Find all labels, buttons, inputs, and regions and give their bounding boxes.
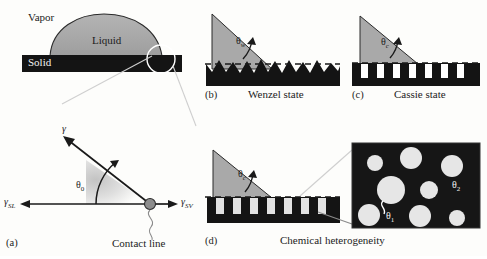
panel-c-caption: Cassie state: [394, 89, 446, 100]
cassie-air-gap: [441, 64, 448, 78]
d-chem-patch: [233, 198, 241, 214]
inset-top-view: [352, 143, 480, 228]
contact-line-caption: Contact line: [112, 238, 165, 249]
inset-patch-circle: [377, 176, 405, 204]
inset-patch-circle: [449, 210, 465, 226]
panel-d-caption: Chemical heterogeneity: [280, 235, 385, 246]
cassie-air-gap: [377, 64, 384, 78]
cassie-theta-subscript: c: [386, 42, 389, 50]
wenzel-theta-subscript: w: [241, 41, 246, 49]
panel-d-diagram: [205, 150, 352, 224]
gamma-label: γ: [62, 124, 66, 134]
cassie-air-gap: [393, 64, 400, 78]
panel-d-letter: (d): [205, 236, 217, 247]
d-chem-patch: [267, 198, 275, 214]
cassie-air-gap: [409, 64, 416, 78]
gamma-sv-arrowhead: [168, 200, 178, 208]
inset-patch-circle: [400, 147, 422, 169]
inset-patch-circle: [441, 155, 463, 177]
gamma-sv-subscript: SV: [185, 202, 193, 210]
contact-line-node: [145, 199, 156, 210]
panel-a-diagram: [20, 136, 178, 240]
panel-b-caption: Wenzel state: [248, 89, 304, 100]
contact-line-pointer: [148, 210, 152, 240]
inset-patch-circle: [367, 155, 383, 171]
panel-b-diagram: [205, 14, 340, 86]
figure-container: Vapor Liquid Solid γ γSL γSV θ0 (a) Cont…: [0, 0, 487, 259]
inset-patch-circle: [420, 181, 438, 199]
d-chem-patch: [318, 198, 326, 214]
cassie-air-gap: [457, 64, 464, 78]
gamma-arrowhead: [63, 136, 75, 147]
d-theta-arrowhead: [248, 170, 257, 178]
solid-label: Solid: [28, 57, 51, 68]
leader-line-right: [173, 66, 196, 126]
d-chem-patch: [216, 198, 224, 214]
panel-a-letter: (a): [6, 238, 18, 249]
cassie-air-gap: [361, 64, 368, 78]
gamma-sv-label: γSV: [181, 197, 193, 210]
d-theta-subscript: c: [243, 174, 246, 182]
theta2-subscript: 2: [457, 185, 461, 193]
liquid-label: Liquid: [92, 35, 121, 46]
theta2-label: θ2: [452, 180, 460, 193]
panel-b-letter: (b): [205, 90, 217, 101]
theta0-label: θ0: [76, 180, 84, 193]
wenzel-theta-label: θw: [236, 36, 245, 49]
theta0-subscript: 0: [81, 185, 85, 193]
inset-callout-upper: [300, 150, 352, 196]
d-chem-patch: [301, 198, 309, 214]
d-chem-patch: [250, 198, 258, 214]
wenzel-theta-arrowhead: [247, 37, 256, 45]
cassie-liquid-wedge: [360, 16, 418, 64]
gamma-sl-subscript: SL: [8, 202, 15, 210]
panel-c-diagram: [352, 16, 480, 86]
inset-patch-circle: [358, 204, 380, 226]
gamma-sl-label: γSL: [4, 197, 15, 210]
vapor-label: Vapor: [28, 12, 54, 23]
cassie-air-gap: [425, 64, 432, 78]
d-chem-patch: [284, 198, 292, 214]
inset-patch-circle: [409, 205, 431, 227]
cassie-theta-arrowhead: [393, 37, 402, 45]
panel-c-letter: (c): [352, 90, 364, 101]
cassie-theta-label: θc: [381, 37, 389, 50]
d-theta-label: θc: [238, 169, 246, 182]
theta1-subscript: 1: [391, 216, 395, 224]
theta1-label: θ1: [386, 211, 394, 224]
gamma-sl-arrowhead: [20, 200, 30, 208]
drop-diagram: [22, 14, 196, 126]
